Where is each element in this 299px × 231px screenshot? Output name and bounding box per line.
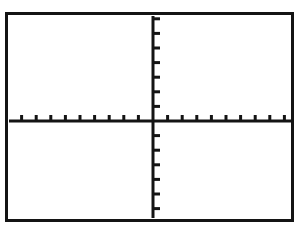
coordinate-plane[interactable] [8,15,291,219]
x-axis [9,115,291,121]
graph-screen-frame [5,12,294,222]
calculator-screenshot [0,0,299,231]
axes-svg [8,15,291,219]
y-axis [153,16,160,218]
